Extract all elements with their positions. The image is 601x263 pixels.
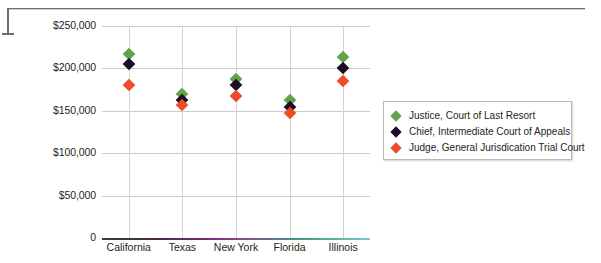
y-tick-label-50000: $50,000 [38,189,96,201]
legend-item-label: Justice, Court of Last Resort [409,110,535,122]
y-tick-label-100000: $100,000 [38,146,96,158]
frame-left-foot [2,33,14,35]
legend-diamond-icon [390,126,401,137]
tick-line-florida [290,26,291,238]
legend-diamond-icon [390,142,401,153]
data-point [337,61,350,74]
legend-item-label: Judge, General Jurisdication Trial Court [409,142,585,154]
x-tick-label-illinois: Illinois [303,241,383,253]
y-tick-label-200000: $200,000 [38,61,96,73]
legend-item-0[interactable]: Justice, Court of Last Resort [392,109,535,123]
plot-area [102,26,370,238]
data-point [122,79,135,92]
frame-left-spine [7,9,9,35]
y-tick-label-150000: $150,000 [38,104,96,116]
legend-item-label: Chief, Intermediate Court of Appeals [409,126,570,138]
tick-line-new-york [236,26,237,238]
legend-item-2[interactable]: Judge, General Jurisdication Trial Court [392,141,585,155]
chart-screenshot: $250,000$200,000$150,000$100,000$50,0000… [0,0,601,263]
tick-line-texas [182,26,183,238]
gridline-0 [102,238,370,240]
frame-top-rule [7,8,585,10]
data-point [230,90,243,103]
data-point [337,75,350,88]
y-tick-label-0: 0 [38,231,96,243]
chart-legend[interactable]: Justice, Court of Last ResortChief, Inte… [383,101,572,160]
y-tick-label-250000: $250,000 [38,19,96,31]
legend-diamond-icon [390,110,401,121]
legend-item-1[interactable]: Chief, Intermediate Court of Appeals [392,125,570,139]
